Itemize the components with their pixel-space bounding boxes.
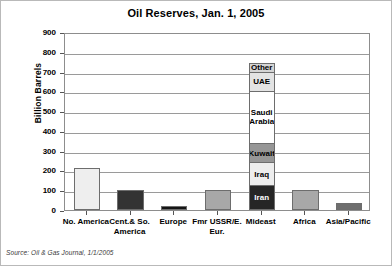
y-tick-label: 300 [10, 148, 56, 156]
bar-rect[interactable] [336, 203, 362, 210]
x-tick-mark [86, 211, 87, 215]
x-tick-mark [348, 211, 349, 215]
y-tick-label: 900 [10, 29, 56, 37]
y-tick-label: 800 [10, 49, 56, 57]
x-tick-mark [304, 211, 305, 215]
y-tick-label: 600 [10, 88, 56, 96]
bar-rect[interactable] [292, 190, 318, 210]
x-tick-mark [217, 211, 218, 215]
plot-area: OtherUAESaudi ArabiaKuwaitIraqIran [64, 33, 370, 211]
bar-cent-so-america[interactable] [117, 34, 143, 210]
y-tick-label: 700 [10, 69, 56, 77]
bar-rect[interactable] [117, 190, 143, 210]
y-tick-label: 200 [10, 167, 56, 175]
bar-europe[interactable] [161, 34, 187, 210]
y-tick-label: 100 [10, 187, 56, 195]
y-tick-label: 0 [10, 207, 56, 215]
stack-segment-other[interactable]: Other [249, 63, 275, 71]
bar-africa[interactable] [292, 34, 318, 210]
stack-segment-saudi-arabia[interactable]: Saudi Arabia [249, 91, 275, 143]
stack-segment-uae[interactable]: UAE [249, 72, 275, 91]
stack-segment-iraq[interactable]: Iraq [249, 162, 275, 185]
bar-series: OtherUAESaudi ArabiaKuwaitIraqIran [65, 34, 369, 210]
stack-segment-iran[interactable]: Iran [249, 185, 275, 210]
x-tick-mark [261, 211, 262, 215]
x-tick-mark [173, 211, 174, 215]
bar-asia-pacific[interactable] [336, 34, 362, 210]
bar-rect[interactable] [205, 190, 231, 210]
y-tick-label: 500 [10, 108, 56, 116]
x-tick-mark [130, 211, 131, 215]
bar-fmr-ussr-e-eur[interactable] [205, 34, 231, 210]
bar-rect[interactable] [74, 168, 100, 210]
bar-rect[interactable] [161, 206, 187, 210]
y-tick-label: 400 [10, 128, 56, 136]
source-note: Source: Oil & Gas Journal, 1/1/2005 [6, 249, 114, 256]
chart-title: Oil Reserves, Jan. 1, 2005 [0, 7, 392, 19]
x-tick-label: Asia/Pacific [320, 217, 376, 227]
y-tick-mark [60, 211, 64, 212]
stack-segment-kuwait[interactable]: Kuwait [249, 143, 275, 163]
bar-no-america[interactable] [74, 34, 100, 210]
bar-mideast[interactable]: OtherUAESaudi ArabiaKuwaitIraqIran [249, 34, 275, 210]
